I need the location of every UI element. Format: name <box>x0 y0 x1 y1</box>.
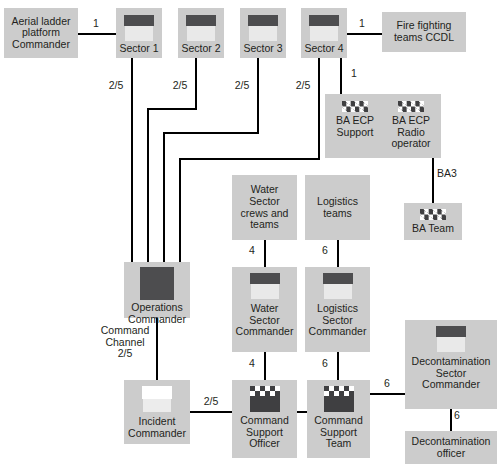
node-label: Sector 2 <box>180 43 222 55</box>
node-label: Decontamination Sector Commander <box>407 356 495 391</box>
node-label: Decontamination officer <box>407 436 495 459</box>
node-label: Aerial ladder platform Commander <box>6 16 76 51</box>
edge-operations-to-incident <box>156 318 158 380</box>
edge-label-sector4-to-baecp: 1 <box>345 68 363 80</box>
edge-incident-to-cso <box>190 411 232 413</box>
edge-sector2-drop <box>195 58 197 110</box>
node-label: Command Support Team <box>309 415 368 450</box>
edge-label-cst-to-deconcmdr: 6 <box>378 378 396 390</box>
node-label: Operations Commander <box>126 302 188 325</box>
icon-group <box>309 15 339 41</box>
icon-group <box>186 15 216 41</box>
node-sector-1[interactable]: Sector 1 <box>116 8 162 58</box>
node-decontamination-sector-commander[interactable]: Decontamination Sector Commander <box>405 320 497 409</box>
node-command-support-officer[interactable]: Command Support Officer <box>232 380 297 458</box>
edge-label-watercrews: 4 <box>243 245 261 257</box>
edge-sector3-to-operations <box>163 132 165 262</box>
edge-sector2-to-operations <box>147 108 149 262</box>
icon-group <box>323 273 353 299</box>
edge-watercrews-to-watercmdr <box>264 240 266 267</box>
edge-label-logisticsteams: 6 <box>316 245 334 257</box>
solid-square-icon <box>140 267 174 300</box>
node-operations-commander[interactable]: Operations Commander <box>124 262 190 318</box>
checkered-cap-icon <box>250 386 280 412</box>
node-label: BA ECP Support <box>327 115 383 138</box>
edge-label-watercmdr-to-cso: 4 <box>243 358 261 370</box>
node-label: Sector 1 <box>118 43 160 55</box>
node-label: Fire fighting teams CCDL <box>384 20 464 43</box>
node-label: Sector 3 <box>242 43 284 55</box>
node-ba-team[interactable]: BA Team <box>404 203 462 240</box>
icon-group <box>324 386 354 412</box>
helmet-icon <box>250 273 280 299</box>
helmet-icon <box>186 15 216 41</box>
node-label: Logistics Sector Commander <box>307 303 368 338</box>
icon-group <box>124 15 154 41</box>
edge-label-logisticscmdr-to-cst: 6 <box>316 358 334 370</box>
node-ba-ecp-support[interactable]: BA ECP Support <box>327 101 383 138</box>
checkered-badge-icon <box>420 209 446 220</box>
node-water-sector-commander[interactable]: Water Sector Commander <box>232 267 297 352</box>
edge-aerial-to-sector1 <box>78 33 116 35</box>
node-decontamination-officer[interactable]: Decontamination officer <box>405 431 497 464</box>
icon-group <box>140 267 174 300</box>
helmet-icon <box>436 326 466 352</box>
edge-sector4-to-operations <box>179 158 181 262</box>
edge-label-sector3-channel: 2/5 <box>230 80 254 92</box>
edge-label-incident-to-cso: 2/5 <box>199 396 223 408</box>
edge-label-command-channel: Command Channel 2/5 <box>96 325 154 360</box>
edge-sector1-to-operations <box>131 58 133 262</box>
edge-deconcmdr-to-deconofficer <box>450 409 452 431</box>
node-label: Water Sector crews and teams <box>234 184 295 230</box>
node-label: Command Support Officer <box>234 415 295 450</box>
helmet-icon <box>323 273 353 299</box>
edge-sector3-run <box>163 132 259 134</box>
node-water-sector-crews-and-teams[interactable]: Water Sector crews and teams <box>232 175 297 240</box>
edge-sector4-run <box>179 158 320 160</box>
checkered-badge-icon <box>342 101 368 112</box>
node-label: Incident Commander <box>126 416 188 439</box>
helmet-icon <box>124 15 154 41</box>
edge-label-deconcmdr-to-deconofficer: 6 <box>454 410 472 422</box>
node-sector-2[interactable]: Sector 2 <box>178 8 224 58</box>
edge-cst-to-deconcmdr <box>370 393 405 395</box>
node-label: BA ECP Radio operator <box>383 115 439 150</box>
node-label: Water Sector Commander <box>234 303 295 338</box>
edge-label-aerial-to-sector1: 1 <box>86 18 106 30</box>
edge-sector3-drop <box>257 58 259 134</box>
helmet-icon <box>309 15 339 41</box>
icon-group <box>420 209 446 220</box>
edge-baecp-to-bateam <box>432 158 434 203</box>
helmet-icon <box>248 15 278 41</box>
node-fire-fighting-teams-ccdl[interactable]: Fire fighting teams CCDL <box>382 12 466 52</box>
node-logistics-sector-commander[interactable]: Logistics Sector Commander <box>305 267 370 352</box>
icon-group <box>142 386 172 412</box>
edge-label-sector1-channel: 2/5 <box>104 80 128 92</box>
checkered-badge-icon <box>398 101 424 112</box>
node-logistics-teams[interactable]: Logistics teams <box>305 175 370 240</box>
edge-sector2-run <box>147 108 197 110</box>
node-ba-ecp-box[interactable]: BA ECP Support BA ECP Radio operator <box>325 94 441 158</box>
node-sector-3[interactable]: Sector 3 <box>240 8 286 58</box>
node-label: BA Team <box>406 223 460 235</box>
node-label: Sector 4 <box>303 43 345 55</box>
node-aerial-ladder-platform-commander[interactable]: Aerial ladder platform Commander <box>4 8 78 58</box>
icon-group <box>436 326 466 352</box>
command-structure-diagram: 1 2/5 2/5 2/5 2/5 1 1 BA3 4 6 Command Ch… <box>0 0 499 467</box>
node-label: Logistics teams <box>307 196 368 219</box>
icon-group <box>250 273 280 299</box>
node-incident-commander[interactable]: Incident Commander <box>124 380 190 444</box>
edge-sector4-drop <box>318 58 320 160</box>
edge-sector4-to-baecp <box>340 58 342 94</box>
node-sector-4[interactable]: Sector 4 <box>301 8 347 58</box>
edge-logisticscmdr-to-cst <box>337 352 339 380</box>
node-command-support-team[interactable]: Command Support Team <box>307 380 370 458</box>
edge-cso-to-cst <box>297 411 307 413</box>
edge-label-baecp-to-bateam: BA3 <box>437 168 471 180</box>
icon-group <box>248 15 278 41</box>
icon-group <box>250 386 280 412</box>
edge-label-sector4-channel: 2/5 <box>291 80 315 92</box>
edge-logisticsteams-to-logisticscmdr <box>337 240 339 267</box>
white-helmet-icon <box>142 386 172 412</box>
node-ba-ecp-radio-operator[interactable]: BA ECP Radio operator <box>383 101 439 150</box>
